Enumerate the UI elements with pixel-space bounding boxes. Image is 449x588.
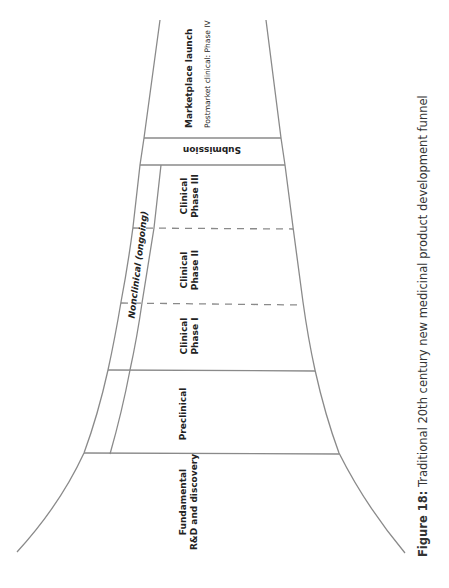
label-preclinical: Preclinical bbox=[178, 388, 188, 441]
svg-text:Phase II: Phase II bbox=[190, 250, 200, 290]
figure-caption: Figure 18: Traditional 20th century new … bbox=[416, 95, 430, 557]
label-fundamental: Fundamental R&D and discovery bbox=[178, 454, 199, 550]
caption-prefix: Figure 18: bbox=[416, 491, 430, 557]
svg-text:Postmarket clinical: Phase IV: Postmarket clinical: Phase IV bbox=[203, 19, 212, 128]
funnel-right-edge bbox=[266, 20, 405, 553]
svg-text:Fundamental: Fundamental bbox=[178, 469, 188, 535]
svg-text:Clinical: Clinical bbox=[179, 252, 189, 289]
divider-phase2-phase1 bbox=[121, 303, 303, 305]
funnel-diagram: Marketplace launch Postmarket clinical: … bbox=[0, 0, 449, 588]
svg-text:Clinical: Clinical bbox=[179, 318, 189, 355]
svg-text:Preclinical: Preclinical bbox=[178, 388, 188, 441]
svg-text:Clinical: Clinical bbox=[179, 178, 189, 215]
svg-text:Figure 18: Traditional 20th ce: Figure 18: Traditional 20th century new … bbox=[416, 95, 430, 557]
label-nonclinical: Nonclinical (ongoing) bbox=[126, 210, 149, 319]
svg-text:R&D and discovery: R&D and discovery bbox=[189, 454, 199, 550]
label-phase2: Clinical Phase II bbox=[179, 250, 200, 290]
svg-text:Marketplace launch: Marketplace launch bbox=[184, 28, 194, 128]
svg-text:Phase I: Phase I bbox=[190, 317, 200, 354]
caption-text: Traditional 20th century new medicinal p… bbox=[416, 95, 430, 490]
label-marketplace: Marketplace launch Postmarket clinical: … bbox=[184, 19, 212, 128]
label-phase3: Clinical Phase III bbox=[179, 174, 200, 218]
label-submission: Submission bbox=[183, 145, 241, 155]
divider-preclinical-fundamental bbox=[84, 453, 339, 454]
divider-phase3-phase2 bbox=[133, 228, 293, 229]
label-phase1: Clinical Phase I bbox=[179, 317, 200, 354]
svg-text:Submission: Submission bbox=[183, 145, 241, 155]
svg-text:Phase III: Phase III bbox=[190, 174, 200, 218]
divider-phase1-preclinical bbox=[108, 370, 315, 371]
svg-text:Nonclinical (ongoing): Nonclinical (ongoing) bbox=[126, 210, 149, 319]
